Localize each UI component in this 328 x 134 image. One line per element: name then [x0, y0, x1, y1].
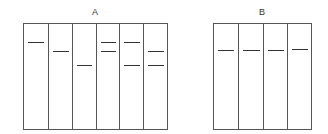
band	[148, 51, 164, 52]
band	[101, 51, 117, 52]
gel-b	[213, 23, 312, 130]
lane-6	[143, 24, 168, 129]
band	[77, 65, 93, 66]
band	[292, 49, 308, 50]
band	[148, 65, 164, 66]
band	[101, 42, 117, 43]
lane-1	[214, 24, 238, 129]
band	[124, 65, 140, 66]
band	[243, 50, 259, 51]
gel-label-a: A	[85, 7, 105, 17]
lane-3	[72, 24, 97, 129]
lane-2	[48, 24, 73, 129]
band	[28, 42, 44, 43]
lane-5	[119, 24, 144, 129]
band	[53, 51, 69, 52]
lane-2	[238, 24, 263, 129]
lane-1	[24, 24, 48, 129]
lane-3	[263, 24, 288, 129]
gel-label-b: B	[252, 7, 272, 17]
lane-4	[96, 24, 121, 129]
band	[268, 50, 284, 51]
gel-a	[23, 23, 168, 130]
band	[124, 42, 140, 43]
band	[218, 50, 234, 51]
lane-4	[287, 24, 312, 129]
